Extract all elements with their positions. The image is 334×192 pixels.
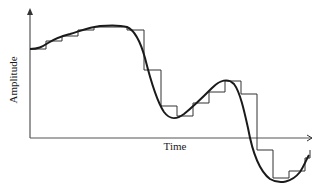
sample-hold-staircase <box>30 27 310 178</box>
x-axis-label: Time <box>164 140 187 152</box>
analog-waveform-curve <box>30 25 309 182</box>
y-axis-arrow-icon <box>27 8 33 15</box>
axes <box>27 8 312 141</box>
sampled-signal-diagram: Amplitude Time <box>0 0 334 192</box>
y-axis-label: Amplitude <box>7 56 19 103</box>
